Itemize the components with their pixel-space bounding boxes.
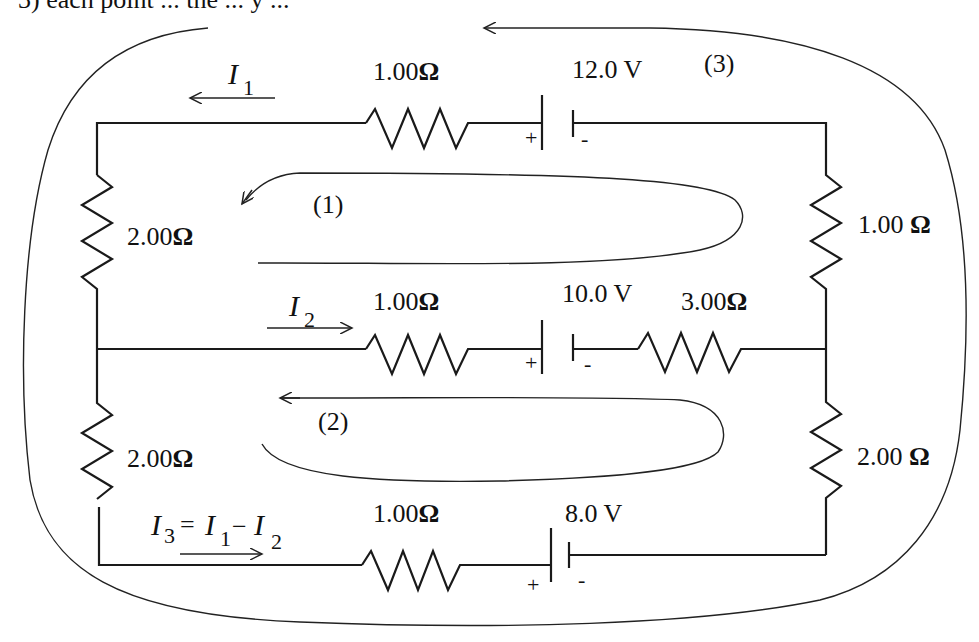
svg-text:2: 2 <box>271 529 282 554</box>
top-branch <box>97 95 826 175</box>
middle-branch <box>97 320 826 374</box>
resistor-right-upper-1ohm <box>811 160 841 349</box>
svg-text:I: I <box>150 508 163 541</box>
battery-10v-label: 10.0 V <box>562 279 633 308</box>
resistor-left-lower-2ohm <box>82 349 112 499</box>
header-fragment: 3) each point ... the ... y ... <box>18 0 290 14</box>
resistor-right-lower-2ohm <box>811 349 841 555</box>
middle-resistor-2-value: 3.00Ω <box>681 287 747 316</box>
current-i2-sub: 2 <box>304 307 315 332</box>
battery-12v-label: 12.0 V <box>572 55 643 84</box>
battery-10v-plus: + <box>525 350 537 375</box>
current-i1-sub: 1 <box>243 75 254 100</box>
circuit-diagram: 3) each point ... the ... y ... (3) <box>0 0 979 642</box>
loop-1-label: (1) <box>313 190 343 219</box>
current-i2-label: I <box>288 289 301 322</box>
resistor-middle-3ohm <box>638 333 755 372</box>
battery-12v-plus: + <box>525 125 537 150</box>
battery-12v-minus: - <box>581 126 588 151</box>
battery-8v-label: 8.0 V <box>565 499 623 528</box>
svg-text:I: I <box>253 508 266 541</box>
battery-10v-minus: - <box>584 351 591 376</box>
battery-8v-plus: + <box>527 572 539 597</box>
loop-2-label: (2) <box>318 407 348 436</box>
loop-3-label: (3) <box>704 49 734 78</box>
resistor-left-upper-2ohm <box>82 175 112 349</box>
svg-text:3: 3 <box>164 523 175 548</box>
resistor-top-1ohm <box>366 109 478 148</box>
svg-text:=: = <box>180 510 195 539</box>
battery-8v-minus: - <box>578 567 585 592</box>
resistor-bottom-1ohm <box>362 551 472 590</box>
resistor-middle-1ohm <box>366 335 478 374</box>
bottom-resistor-value: 1.00Ω <box>373 499 439 528</box>
right-upper-resistor-value: 1.00 Ω <box>858 210 931 239</box>
right-lower-resistor-value: 2.00 Ω <box>857 442 930 471</box>
svg-text:−: − <box>232 512 247 541</box>
current-i3-equation: I 3 = I 1 − I 2 <box>150 508 282 554</box>
top-resistor-value: 1.00Ω <box>373 57 439 86</box>
middle-resistor-1-value: 1.00Ω <box>373 287 439 316</box>
left-lower-resistor-value: 2.00Ω <box>127 444 193 473</box>
svg-text:1: 1 <box>220 526 231 551</box>
svg-text:I: I <box>204 508 217 541</box>
left-upper-resistor-value: 2.00Ω <box>127 222 193 251</box>
current-i1-label: I <box>227 57 240 90</box>
